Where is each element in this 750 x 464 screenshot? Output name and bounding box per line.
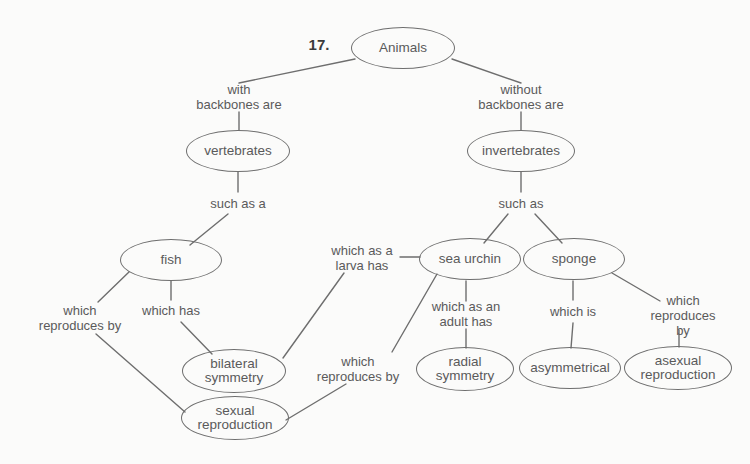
concept-map-canvas: Animalsvertebratesinvertebratesfishsea u… [0, 0, 750, 464]
node-sea-urchin[interactable]: sea urchin [419, 238, 521, 280]
edge-which-reproduces-by-to-sexual [96, 334, 185, 412]
link-label-which-has: which has [142, 303, 200, 318]
edge-which-has-to-bilateral [181, 322, 212, 354]
edge-animals-to-invertebrates [452, 59, 521, 83]
node-radial-symmetry[interactable]: radial symmetry [416, 347, 514, 391]
link-label-which-reproduces-by-urchin: which reproduces by [317, 354, 399, 384]
link-label-such-as-a: such as a [210, 196, 266, 211]
link-label-which-is: which is [550, 304, 596, 319]
node-bilateral-symmetry[interactable]: bilateral symmetry [182, 349, 286, 393]
node-vertebrates[interactable]: vertebrates [186, 130, 290, 172]
node-invertebrates[interactable]: invertebrates [467, 130, 575, 172]
node-fish[interactable]: fish [120, 239, 222, 281]
edge-fish-to-which-reproduces-by [98, 272, 129, 302]
link-label-which-as-a-larva-has: which as a larva has [331, 243, 392, 273]
link-label-without-backbones-are: without backbones are [478, 82, 563, 112]
link-label-which-as-an-adult-has: which as an adult has [432, 299, 501, 329]
node-sexual-reproduction[interactable]: sexual reproduction [181, 396, 289, 440]
node-asexual-reproduction[interactable]: asexual reproduction [624, 346, 732, 390]
node-animals[interactable]: Animals [351, 27, 455, 69]
link-label-which-reproduces-by-sponge: which reproduces by [650, 293, 717, 338]
node-sponge[interactable]: sponge [523, 238, 625, 280]
link-label-such-as: such as [499, 196, 544, 211]
link-label-which-reproduces-by-fish: which reproduces by [39, 303, 121, 333]
link-label-with-backbones-are: with backbones are [196, 82, 281, 112]
node-asymmetrical[interactable]: asymmetrical [519, 347, 621, 389]
edge-reproduces-label-to-sexual [286, 384, 346, 420]
edge-layer [0, 0, 750, 464]
edge-which-is-to-asymmetrical [571, 323, 573, 348]
edge-suchasa-to-fish [190, 214, 228, 245]
question-number: 17. [309, 36, 330, 53]
edge-animals-to-vertebrates [239, 59, 355, 83]
edge-sea-urchin-to-reproduces-label [392, 274, 437, 352]
edge-larva-label-to-bilateral [283, 273, 344, 358]
